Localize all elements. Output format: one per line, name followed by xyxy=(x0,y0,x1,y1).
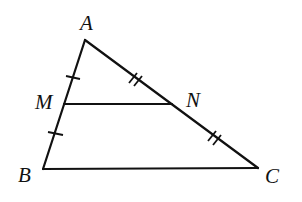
segment-bc xyxy=(43,168,258,169)
label-a: A xyxy=(78,11,93,35)
label-n: N xyxy=(185,88,201,112)
label-m: M xyxy=(34,90,54,114)
triangle-diagram: A M N B C xyxy=(0,0,302,202)
label-c: C xyxy=(265,164,280,188)
label-b: B xyxy=(18,163,31,187)
